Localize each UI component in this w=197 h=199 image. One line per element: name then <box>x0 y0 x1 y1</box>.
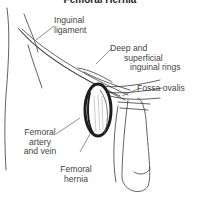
diagram-title: Femoral Hernia <box>50 0 150 5</box>
cord-outline <box>122 98 150 192</box>
anatomy-illustration <box>0 0 197 199</box>
label-femoral-vessels: Femoral artery and vein <box>20 128 60 157</box>
label-inguinal-ligament: Inguinal ligament <box>54 16 86 35</box>
body-contour-line <box>5 8 9 170</box>
label-inguinal-rings: Deep and superficial inguinal rings <box>110 44 181 73</box>
label-fossa-ovalis: Fossa ovalis <box>137 84 185 94</box>
femoral-hernia-diagram: Femoral Hernia Inguinal ligament Deep an… <box>0 0 197 199</box>
label-femoral-hernia: Femoral hernia <box>56 165 96 184</box>
hernia-sac <box>85 84 111 136</box>
